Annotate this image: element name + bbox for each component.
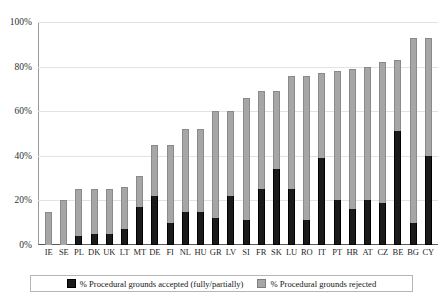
x-axis-tick: AT [360, 247, 375, 263]
stacked-bar [334, 71, 341, 245]
bar-segment-rejected [91, 189, 98, 234]
bar-segment-rejected [288, 76, 295, 190]
stacked-bar [364, 67, 371, 245]
bar-segment-accepted [394, 131, 401, 245]
bar-column [117, 22, 132, 245]
bar-segment-rejected [197, 129, 204, 212]
bar-segment-rejected [151, 145, 158, 196]
bar-segment-accepted [425, 156, 432, 245]
x-axis-tick: PL [71, 247, 86, 263]
bar-column [375, 22, 390, 245]
bar-segment-accepted [75, 236, 82, 245]
bar-segment-rejected [425, 38, 432, 156]
bar-segment-rejected [303, 76, 310, 221]
stacked-bar [197, 129, 204, 245]
bar-segment-accepted [349, 209, 356, 245]
bar-segment-rejected [106, 189, 113, 234]
bar-column [269, 22, 284, 245]
stacked-bar [227, 111, 234, 245]
bar-segment-accepted [318, 158, 325, 245]
x-axis-tick: LT [117, 247, 132, 263]
bar-segment-accepted [379, 203, 386, 245]
bar-segment-rejected [60, 200, 67, 245]
x-axis-tick: SI [238, 247, 253, 263]
stacked-bar [303, 76, 310, 245]
bar-column [56, 22, 71, 245]
rejected-swatch-icon [257, 279, 266, 288]
bar-column [299, 22, 314, 245]
x-axis-tick: PT [330, 247, 345, 263]
y-axis-tick: 40% [15, 151, 32, 161]
x-axis-tick: DE [147, 247, 162, 263]
bar-column [238, 22, 253, 245]
y-axis-tick: 80% [15, 62, 32, 72]
stacked-bar [243, 98, 250, 245]
stacked-bar [258, 91, 265, 245]
legend-label: % Procedural grounds rejected [270, 279, 376, 289]
x-axis-tick: SE [56, 247, 71, 263]
bar-segment-accepted [258, 189, 265, 245]
x-axis-tick: LV [223, 247, 238, 263]
bar-segment-accepted [227, 196, 234, 245]
stacked-bar [151, 145, 158, 245]
x-axis-tick: BE [390, 247, 405, 263]
bar-column [178, 22, 193, 245]
x-axis-tick: RO [299, 247, 314, 263]
plot-area [38, 22, 438, 245]
bar-segment-accepted [288, 189, 295, 245]
bar-column [193, 22, 208, 245]
stacked-bar [75, 189, 82, 245]
bar-segment-rejected [273, 91, 280, 169]
x-axis-labels: IESEPLDKUKLTMTDEFINLHUGRLVSIFRSKLUROITPT… [38, 247, 438, 263]
bar-segment-accepted [197, 212, 204, 245]
bar-column [147, 22, 162, 245]
x-axis-tick: HU [193, 247, 208, 263]
bar-segment-accepted [243, 220, 250, 245]
x-axis-tick: UK [102, 247, 117, 263]
stacked-bar [60, 200, 67, 245]
bar-column [284, 22, 299, 245]
stacked-bar [121, 187, 128, 245]
x-axis-tick: SK [269, 247, 284, 263]
bar-segment-accepted [121, 229, 128, 245]
bar-segment-accepted [212, 218, 219, 245]
x-axis-tick: DK [87, 247, 102, 263]
bar-column [390, 22, 405, 245]
bar-column [41, 22, 56, 245]
bar-column [87, 22, 102, 245]
y-axis-tick: 60% [15, 106, 32, 116]
bar-column [163, 22, 178, 245]
legend-entry[interactable]: % Procedural grounds accepted (fully/par… [67, 279, 244, 289]
x-axis-tick: LU [284, 247, 299, 263]
bar-segment-rejected [349, 69, 356, 209]
y-axis-tick: 100% [10, 17, 32, 27]
chart-legend: % Procedural grounds accepted (fully/par… [30, 275, 413, 292]
legend-entry[interactable]: % Procedural grounds rejected [257, 279, 376, 289]
x-axis-tick: MT [132, 247, 147, 263]
bar-segment-rejected [243, 98, 250, 221]
bar-segment-accepted [151, 196, 158, 245]
bar-segment-rejected [258, 91, 265, 189]
stacked-bar [379, 62, 386, 245]
bar-segment-accepted [91, 234, 98, 245]
bar-segment-rejected [227, 111, 234, 196]
bar-segment-rejected [45, 212, 52, 245]
stacked-bar [288, 76, 295, 245]
bar-segment-rejected [318, 73, 325, 158]
bar-segment-rejected [167, 145, 174, 223]
x-axis-tick: FI [163, 247, 178, 263]
stacked-bar [425, 38, 432, 245]
stacked-bar [91, 189, 98, 245]
x-axis-tick: GR [208, 247, 223, 263]
x-axis-tick: BG [406, 247, 421, 263]
bar-column [360, 22, 375, 245]
bar-segment-rejected [394, 60, 401, 131]
y-axis-tick: 0% [19, 240, 32, 250]
bar-column [406, 22, 421, 245]
bar-segment-rejected [182, 129, 189, 212]
bar-column [102, 22, 117, 245]
bar-column [330, 22, 345, 245]
bar-column [208, 22, 223, 245]
bar-segment-accepted [410, 223, 417, 245]
x-axis-tick: IE [41, 247, 56, 263]
